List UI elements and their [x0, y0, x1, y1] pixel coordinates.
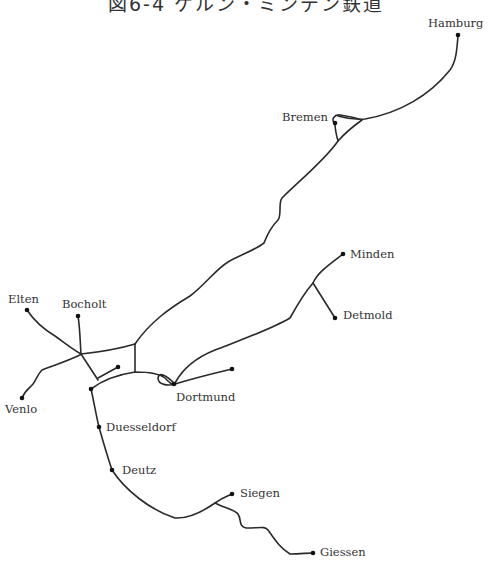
route-minden-dortmund — [175, 254, 343, 383]
route-giessen-branch — [215, 503, 313, 554]
city-label-giessen: Giessen — [320, 545, 366, 559]
city-marker-duesseldorf — [97, 425, 102, 430]
railway-map: HamburgBremenMindenDetmoldEltenBocholtVe… — [0, 0, 492, 564]
route-bremen-dortmund-trunk — [135, 141, 338, 344]
endpoint-branch-end-east-dortmund — [230, 367, 235, 372]
city-label-dortmund: Dortmund — [176, 390, 236, 404]
endpoint-junction-91-389 — [89, 387, 94, 392]
city-label-siegen: Siegen — [240, 486, 281, 500]
city-marker-siegen — [230, 492, 235, 497]
route-junction-north-cross — [81, 344, 135, 354]
city-label-duesseldorf: Duesseldorf — [106, 420, 177, 434]
city-marker-dortmund — [172, 382, 177, 387]
city-label-elten: Elten — [8, 292, 39, 306]
route-hamburg-bremen — [338, 35, 458, 119]
city-marker-bremen — [333, 121, 338, 126]
city-label-deutz: Deutz — [122, 463, 156, 477]
route-detmold-branch — [313, 283, 335, 318]
city-marker-venlo — [20, 396, 25, 401]
route-venlo-junction — [22, 355, 80, 398]
city-label-hamburg: Hamburg — [428, 16, 484, 30]
route-bocholt-junction — [78, 316, 81, 354]
city-marker-giessen — [311, 551, 316, 556]
city-label-minden: Minden — [350, 247, 395, 261]
city-marker-elten — [25, 308, 30, 313]
city-marker-hamburg — [456, 33, 461, 38]
city-label-bocholt: Bocholt — [62, 297, 107, 311]
route-duesseldorf-line — [91, 389, 232, 518]
railway-routes — [22, 35, 458, 554]
route-elten-junction — [27, 310, 81, 354]
city-marker-bocholt — [76, 314, 81, 319]
city-marker-minden — [341, 252, 346, 257]
city-label-detmold: Detmold — [343, 308, 393, 322]
city-marker-deutz — [110, 468, 115, 473]
city-labels: HamburgBremenMindenDetmoldEltenBocholtVe… — [4, 16, 484, 559]
route-junction-south-diag — [81, 354, 98, 380]
city-label-bremen: Bremen — [282, 110, 328, 124]
city-marker-detmold — [333, 316, 338, 321]
endpoint-branch-end-central — [116, 365, 121, 370]
city-label-venlo: Venlo — [4, 402, 37, 416]
